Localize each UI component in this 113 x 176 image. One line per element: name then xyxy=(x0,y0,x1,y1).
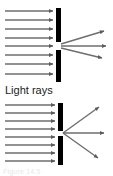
figure-number-label: Figure 14.5 xyxy=(3,168,41,176)
barrier-segment-lower xyxy=(58,136,63,165)
barrier-segment-upper xyxy=(56,8,61,42)
barrier-segment-upper xyxy=(58,103,63,131)
barrier-segment-lower xyxy=(56,50,61,82)
light-rays-label: Light rays xyxy=(5,84,53,96)
